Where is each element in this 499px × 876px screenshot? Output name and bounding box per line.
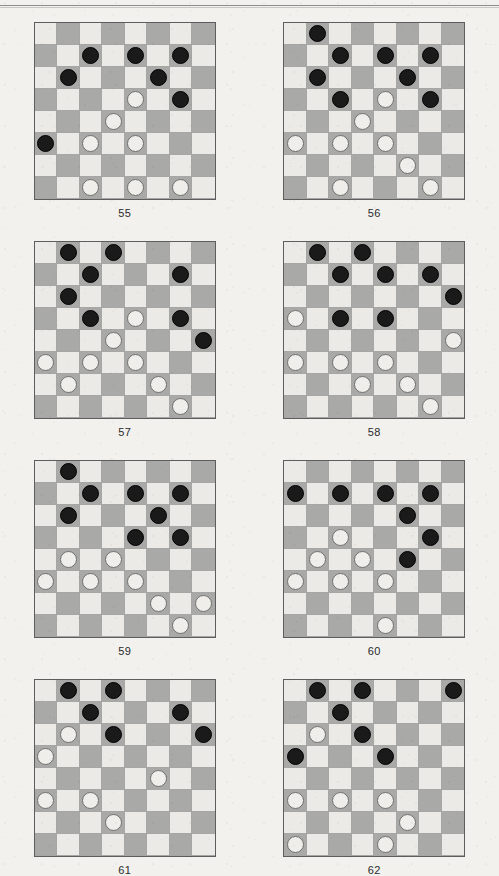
white-piece[interactable] bbox=[422, 398, 439, 415]
white-piece[interactable] bbox=[127, 179, 144, 196]
white-piece[interactable] bbox=[105, 814, 122, 831]
white-piece[interactable] bbox=[150, 376, 167, 393]
square-r1-c4[interactable] bbox=[374, 483, 397, 505]
square-r5-c7[interactable] bbox=[192, 790, 215, 812]
square-r1-c4[interactable] bbox=[374, 264, 397, 286]
square-r5-c0[interactable] bbox=[35, 790, 58, 812]
square-r5-c2[interactable] bbox=[80, 352, 103, 374]
square-r3-c6[interactable] bbox=[419, 527, 442, 549]
square-r7-c1[interactable] bbox=[57, 177, 80, 199]
square-r1-c3[interactable] bbox=[352, 483, 375, 505]
square-r6-c4[interactable] bbox=[125, 155, 148, 177]
square-r0-c5[interactable] bbox=[147, 461, 170, 483]
white-piece[interactable] bbox=[127, 573, 144, 590]
square-r5-c1[interactable] bbox=[307, 133, 330, 155]
square-r4-c7[interactable] bbox=[442, 549, 465, 571]
white-piece[interactable] bbox=[377, 836, 394, 853]
black-piece[interactable] bbox=[399, 551, 416, 568]
square-r3-c7[interactable] bbox=[442, 746, 465, 768]
black-piece[interactable] bbox=[82, 310, 99, 327]
square-r6-c2[interactable] bbox=[329, 155, 352, 177]
black-piece[interactable] bbox=[105, 244, 122, 261]
square-r1-c0[interactable] bbox=[35, 45, 58, 67]
square-r0-c2[interactable] bbox=[329, 461, 352, 483]
square-r6-c3[interactable] bbox=[352, 593, 375, 615]
square-r6-c4[interactable] bbox=[125, 374, 148, 396]
square-r7-c7[interactable] bbox=[192, 834, 215, 856]
square-r5-c6[interactable] bbox=[170, 352, 193, 374]
square-r0-c0[interactable] bbox=[284, 242, 307, 264]
square-r4-c2[interactable] bbox=[80, 330, 103, 352]
square-r4-c1[interactable] bbox=[307, 330, 330, 352]
square-r2-c5[interactable] bbox=[397, 286, 420, 308]
square-r4-c3[interactable] bbox=[102, 549, 125, 571]
square-r5-c6[interactable] bbox=[170, 790, 193, 812]
square-r4-c4[interactable] bbox=[374, 768, 397, 790]
black-piece[interactable] bbox=[60, 463, 77, 480]
square-r7-c7[interactable] bbox=[442, 834, 465, 856]
square-r1-c0[interactable] bbox=[284, 264, 307, 286]
square-r7-c1[interactable] bbox=[307, 177, 330, 199]
square-r0-c5[interactable] bbox=[397, 242, 420, 264]
square-r2-c5[interactable] bbox=[397, 724, 420, 746]
square-r5-c7[interactable] bbox=[442, 790, 465, 812]
square-r6-c6[interactable] bbox=[170, 374, 193, 396]
white-piece[interactable] bbox=[172, 398, 189, 415]
square-r2-c5[interactable] bbox=[147, 67, 170, 89]
square-r0-c6[interactable] bbox=[419, 680, 442, 702]
square-r4-c6[interactable] bbox=[170, 111, 193, 133]
square-r2-c6[interactable] bbox=[419, 67, 442, 89]
square-r7-c2[interactable] bbox=[80, 834, 103, 856]
black-piece[interactable] bbox=[422, 47, 439, 64]
square-r4-c7[interactable] bbox=[192, 111, 215, 133]
square-r2-c5[interactable] bbox=[147, 724, 170, 746]
white-piece[interactable] bbox=[37, 792, 54, 809]
square-r6-c6[interactable] bbox=[419, 374, 442, 396]
square-r5-c6[interactable] bbox=[419, 133, 442, 155]
square-r6-c3[interactable] bbox=[352, 374, 375, 396]
square-r5-c5[interactable] bbox=[397, 790, 420, 812]
square-r3-c2[interactable] bbox=[80, 89, 103, 111]
square-r5-c1[interactable] bbox=[57, 790, 80, 812]
square-r3-c0[interactable] bbox=[284, 746, 307, 768]
square-r6-c2[interactable] bbox=[329, 374, 352, 396]
square-r5-c3[interactable] bbox=[102, 571, 125, 593]
white-piece[interactable] bbox=[399, 157, 416, 174]
square-r5-c1[interactable] bbox=[307, 571, 330, 593]
square-r6-c7[interactable] bbox=[192, 155, 215, 177]
square-r1-c7[interactable] bbox=[192, 702, 215, 724]
square-r0-c0[interactable] bbox=[35, 461, 58, 483]
white-piece[interactable] bbox=[309, 726, 326, 743]
black-piece[interactable] bbox=[105, 726, 122, 743]
square-r7-c0[interactable] bbox=[284, 834, 307, 856]
square-r1-c7[interactable] bbox=[442, 702, 465, 724]
square-r5-c7[interactable] bbox=[192, 571, 215, 593]
square-r6-c4[interactable] bbox=[374, 374, 397, 396]
square-r1-c5[interactable] bbox=[397, 702, 420, 724]
square-r5-c2[interactable] bbox=[329, 571, 352, 593]
square-r6-c1[interactable] bbox=[307, 155, 330, 177]
square-r2-c3[interactable] bbox=[352, 724, 375, 746]
black-piece[interactable] bbox=[309, 682, 326, 699]
square-r6-c4[interactable] bbox=[374, 155, 397, 177]
square-r0-c2[interactable] bbox=[329, 680, 352, 702]
square-r4-c0[interactable] bbox=[35, 111, 58, 133]
square-r4-c0[interactable] bbox=[284, 330, 307, 352]
square-r4-c2[interactable] bbox=[80, 111, 103, 133]
black-piece[interactable] bbox=[309, 244, 326, 261]
black-piece[interactable] bbox=[82, 47, 99, 64]
square-r6-c0[interactable] bbox=[284, 155, 307, 177]
square-r1-c7[interactable] bbox=[442, 45, 465, 67]
square-r5-c3[interactable] bbox=[352, 790, 375, 812]
square-r2-c2[interactable] bbox=[329, 67, 352, 89]
square-r6-c3[interactable] bbox=[102, 155, 125, 177]
square-r4-c2[interactable] bbox=[329, 768, 352, 790]
white-piece[interactable] bbox=[105, 332, 122, 349]
square-r7-c4[interactable] bbox=[374, 396, 397, 418]
square-r7-c6[interactable] bbox=[419, 396, 442, 418]
square-r0-c3[interactable] bbox=[102, 461, 125, 483]
square-r4-c2[interactable] bbox=[80, 549, 103, 571]
square-r0-c7[interactable] bbox=[442, 461, 465, 483]
square-r2-c7[interactable] bbox=[442, 505, 465, 527]
square-r3-c3[interactable] bbox=[102, 746, 125, 768]
